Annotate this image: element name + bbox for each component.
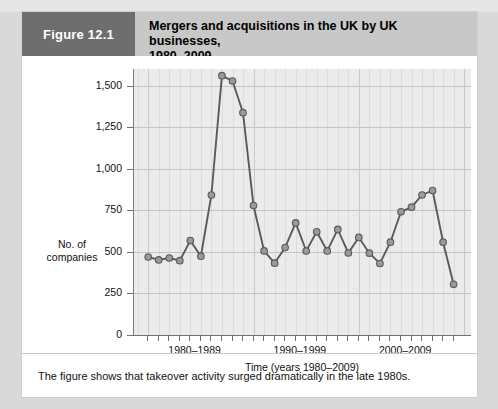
x-axis-tick	[442, 336, 443, 341]
figure-note-text: The figure shows that takeover activity …	[22, 370, 410, 382]
y-axis-label: 1,500	[64, 79, 122, 91]
x-axis-tick	[210, 336, 211, 341]
x-axis-tick	[368, 336, 369, 341]
x-axis-tick	[274, 336, 275, 341]
data-point-marker	[356, 234, 363, 241]
data-series-line	[134, 69, 471, 335]
x-axis-tick	[242, 336, 243, 341]
data-point-marker	[345, 250, 352, 257]
y-axis-tick	[127, 127, 133, 128]
x-axis-tick	[295, 336, 296, 341]
x-axis-tick	[432, 336, 433, 341]
y-axis-tick	[127, 169, 133, 170]
x-axis-tick	[358, 336, 359, 341]
y-axis-label: 750	[64, 203, 122, 215]
x-axis-tick	[189, 336, 190, 341]
data-point-marker	[155, 257, 162, 264]
y-axis-label: 1,250	[64, 120, 122, 132]
data-point-marker	[303, 248, 310, 255]
chart-area: No. of companies 02505007501,0001,2501,5…	[22, 56, 477, 353]
x-axis-tick	[263, 336, 264, 341]
x-axis-tick	[158, 336, 159, 341]
figure-note: The figure shows that takeover activity …	[22, 353, 477, 398]
data-point-marker	[429, 187, 436, 194]
data-point-marker	[387, 239, 394, 246]
data-point-marker	[292, 220, 299, 227]
x-axis-tick	[379, 336, 380, 341]
series-polyline	[148, 76, 453, 285]
plot-region	[133, 69, 471, 335]
data-point-marker	[450, 281, 457, 288]
data-point-marker	[250, 202, 257, 209]
x-axis-tick	[326, 336, 327, 341]
data-point-marker	[324, 248, 331, 255]
data-point-marker	[366, 250, 373, 257]
x-axis-tick	[232, 336, 233, 341]
y-axis-tick	[127, 335, 133, 336]
data-point-marker	[377, 260, 384, 267]
x-axis-tick	[453, 336, 454, 341]
y-axis-label: 500	[64, 245, 122, 257]
y-axis-tick	[127, 252, 133, 253]
y-axis-label: 250	[64, 286, 122, 298]
data-point-marker	[208, 192, 215, 199]
data-point-marker	[240, 109, 247, 116]
figure-title-line-1: Mergers and acquisitions in the UK by UK…	[149, 19, 469, 49]
x-axis-tick	[305, 336, 306, 341]
x-axis-tick	[284, 336, 285, 341]
y-axis-tick	[127, 293, 133, 294]
x-axis-tick	[389, 336, 390, 341]
data-point-marker	[282, 244, 289, 251]
x-axis-tick	[347, 336, 348, 341]
data-point-marker	[398, 209, 405, 216]
x-axis-tick	[316, 336, 317, 341]
data-point-marker	[219, 72, 226, 79]
page-top-bleed	[0, 0, 498, 12]
data-point-marker	[419, 192, 426, 199]
x-axis-tick	[221, 336, 222, 341]
x-axis-tick	[253, 336, 254, 341]
y-axis-tick	[127, 210, 133, 211]
figure-number-badge: Figure 12.1	[22, 12, 135, 56]
y-axis-tick	[127, 86, 133, 87]
y-axis-label: 1,000	[64, 162, 122, 174]
x-axis-tick	[200, 336, 201, 341]
data-point-marker	[408, 204, 415, 211]
data-point-marker	[229, 78, 236, 85]
x-axis-tick	[411, 336, 412, 341]
figure-card: Figure 12.1 Mergers and acquisitions in …	[22, 12, 477, 397]
x-axis-tick	[421, 336, 422, 341]
data-point-marker	[261, 248, 268, 255]
data-point-marker	[440, 239, 447, 246]
figure-header: Figure 12.1 Mergers and acquisitions in …	[22, 12, 477, 56]
figure-title: Mergers and acquisitions in the UK by UK…	[135, 12, 477, 56]
data-point-marker	[166, 255, 173, 262]
data-point-marker	[198, 253, 205, 260]
data-point-marker	[335, 226, 342, 233]
data-point-marker	[145, 254, 152, 261]
y-axis-label: 0	[64, 328, 122, 340]
x-axis-tick	[400, 336, 401, 341]
data-point-marker	[313, 229, 320, 236]
data-point-marker	[177, 257, 184, 264]
x-axis-tick	[168, 336, 169, 341]
data-point-marker	[271, 260, 278, 267]
x-axis-tick	[179, 336, 180, 341]
x-axis-tick	[337, 336, 338, 341]
data-point-marker	[187, 237, 194, 244]
x-axis-tick	[147, 336, 148, 341]
